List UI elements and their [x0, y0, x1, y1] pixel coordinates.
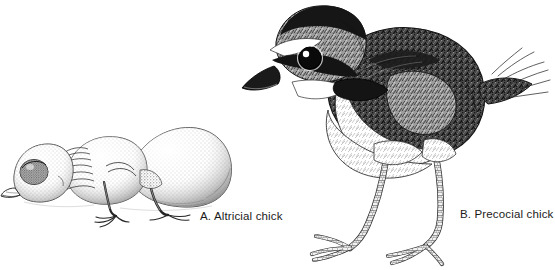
caption-altricial-chick: A. Altricial chick — [200, 210, 283, 222]
precocial-front-foot-scales — [312, 236, 350, 260]
altricial-eye — [20, 160, 48, 185]
caption-precocial-chick: B. Precocial chick — [460, 208, 553, 220]
altricial-hind-toes — [150, 215, 190, 220]
precocial-eye — [298, 46, 323, 71]
figure-root: A. Altricial chick B. Precocial chick — [0, 0, 555, 270]
precocial-rear-foot-scales — [388, 246, 442, 264]
altricial-body-group — [1, 127, 231, 227]
precocial-bill — [242, 66, 280, 90]
precocial-body-group — [242, 6, 550, 264]
altricial-head — [1, 144, 73, 202]
precocial-tail — [479, 48, 550, 104]
altricial-front-toes — [95, 216, 129, 227]
altricial-chick-drawing — [0, 110, 240, 225]
precocial-chick-drawing — [240, 0, 555, 266]
